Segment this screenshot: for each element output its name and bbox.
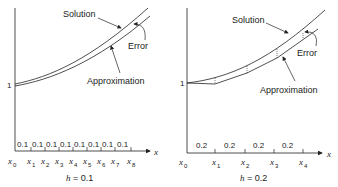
left-solution-label: Solution — [63, 9, 96, 19]
svg-text:2: 2 — [246, 163, 250, 169]
left-x-axis-label: x — [153, 147, 158, 157]
svg-text:0.1: 0.1 — [46, 140, 58, 149]
right-solution-label: Solution — [232, 15, 265, 25]
right-caption: h = 0.2 — [240, 173, 267, 183]
svg-text:5: 5 — [88, 162, 92, 168]
svg-text:x: x — [82, 156, 87, 166]
svg-text:x: x — [211, 157, 216, 167]
svg-text:8: 8 — [132, 162, 136, 168]
right-step-labels: 0.2 0.2 0.2 0.2 — [196, 141, 294, 150]
svg-text:x: x — [68, 156, 73, 166]
svg-text:0.1: 0.1 — [102, 140, 114, 149]
svg-text:6: 6 — [102, 162, 106, 168]
svg-text:x: x — [298, 157, 303, 167]
left-error-label: Error — [128, 41, 148, 51]
left-panel: 1 Solution Error Approximation 0.1 0.1 0… — [7, 8, 158, 183]
svg-text:0.1: 0.1 — [17, 140, 29, 149]
euler-step-size-diagram: 1 Solution Error Approximation 0.1 0.1 0… — [0, 0, 338, 187]
svg-text:0.1: 0.1 — [117, 140, 129, 149]
svg-text:3: 3 — [60, 162, 64, 168]
right-y-tick-1: 1 — [180, 79, 185, 88]
svg-text:0.2: 0.2 — [253, 141, 265, 150]
left-y-tick-1: 1 — [7, 81, 12, 90]
right-x-labels: x0 x1 x2 x3 x4 — [178, 157, 308, 169]
svg-text:x: x — [240, 157, 245, 167]
svg-text:4: 4 — [304, 163, 308, 169]
svg-text:0.2: 0.2 — [196, 141, 208, 150]
svg-text:0.1: 0.1 — [88, 140, 100, 149]
svg-text:x: x — [40, 156, 45, 166]
right-panel: 1 Solution Error Approximation 0.2 0.2 0… — [178, 8, 331, 183]
svg-text:1: 1 — [32, 162, 36, 168]
svg-text:0: 0 — [184, 163, 188, 169]
left-x-labels: x0 x1 x2 x3 x4 x5 x6 x7 x8 — [7, 156, 136, 168]
svg-text:0: 0 — [13, 162, 17, 168]
svg-text:0.2: 0.2 — [224, 141, 236, 150]
svg-text:1: 1 — [217, 163, 221, 169]
svg-text:7: 7 — [116, 162, 120, 168]
svg-text:2: 2 — [46, 162, 50, 168]
svg-text:x: x — [54, 156, 59, 166]
svg-text:x: x — [26, 156, 31, 166]
left-caption: h = 0.1 — [66, 173, 93, 183]
right-solution-arrow — [266, 23, 288, 33]
svg-text:4: 4 — [74, 162, 78, 168]
svg-text:x: x — [96, 156, 101, 166]
svg-text:0.1: 0.1 — [32, 140, 44, 149]
right-error-label: Error — [297, 48, 317, 58]
svg-text:0.2: 0.2 — [282, 141, 294, 150]
left-solution-arrow — [98, 18, 121, 28]
right-x-axis-label: x — [326, 149, 331, 159]
svg-text:x: x — [178, 157, 183, 167]
left-error-arrow — [134, 24, 145, 40]
svg-text:x: x — [7, 156, 12, 166]
left-approximation-arrow — [111, 46, 120, 73]
svg-text:3: 3 — [275, 163, 279, 169]
svg-text:0.1: 0.1 — [60, 140, 72, 149]
svg-text:0.1: 0.1 — [74, 140, 86, 149]
right-error-markers — [215, 33, 303, 84]
svg-text:x: x — [126, 156, 131, 166]
right-approximation-arrow — [283, 57, 295, 81]
svg-text:x: x — [269, 157, 274, 167]
svg-text:x: x — [110, 156, 115, 166]
right-approximation-label: Approximation — [260, 85, 318, 95]
left-approximation-label: Approximation — [87, 76, 145, 86]
